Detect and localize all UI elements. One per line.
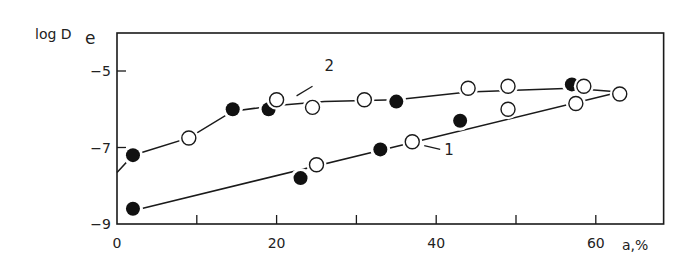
filled-point-marker: [294, 171, 308, 185]
x-tick-label: 40: [427, 235, 445, 251]
x-tick-label: 0: [113, 235, 122, 251]
axis-labels: log D e a,%: [35, 26, 648, 253]
open-point-marker: [577, 79, 591, 93]
filled-point-marker: [389, 95, 403, 109]
open-point-marker: [613, 87, 627, 101]
open-point-marker: [501, 102, 515, 116]
curve-1-label: 1: [444, 141, 454, 159]
curve-2-leader: [297, 86, 313, 96]
axis-ticks: 0204060−5−7−9: [90, 63, 604, 251]
x-tick-label: 20: [268, 235, 286, 251]
open-point-marker: [182, 131, 196, 145]
open-point-marker: [357, 93, 371, 107]
plot-frame: [117, 33, 664, 224]
diffusion-chart: 0204060−5−7−9 log D e a,% 21: [0, 0, 700, 276]
open-point-marker: [270, 93, 284, 107]
open-point-marker: [310, 158, 324, 172]
plot-border: [117, 33, 664, 224]
open-point-marker: [405, 135, 419, 149]
filled-point-marker: [126, 202, 140, 216]
y-tick-label: −5: [90, 63, 111, 79]
filled-point-marker: [373, 142, 387, 156]
y-axis-label: log D: [35, 26, 72, 42]
curve-1-leader: [424, 146, 440, 150]
y-axis-label-subscript: e: [85, 28, 95, 48]
x-tick-label: 60: [587, 235, 605, 251]
y-tick-label: −7: [90, 140, 111, 156]
x-axis-label: a,%: [622, 237, 648, 253]
filled-point-marker: [126, 148, 140, 162]
filled-point-marker: [226, 102, 240, 116]
filled-point-marker: [453, 114, 467, 128]
open-point-marker: [501, 79, 515, 93]
data-points: [123, 74, 630, 218]
open-point-marker: [569, 97, 583, 111]
open-point-marker: [306, 100, 320, 114]
open-point-marker: [461, 81, 475, 95]
curve-2-label: 2: [324, 57, 334, 75]
y-tick-label: −9: [90, 216, 111, 232]
